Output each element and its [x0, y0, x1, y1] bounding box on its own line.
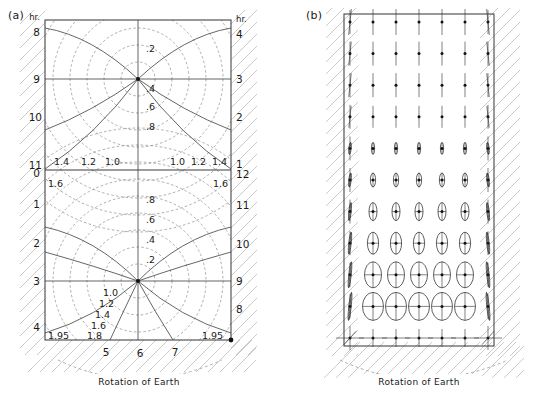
right-tick-3: 3	[236, 73, 243, 85]
tidal-ellipse	[390, 232, 401, 254]
contour-label-1p2-right: 1.2	[191, 156, 206, 167]
centre-label-upper-0p2: .2	[146, 43, 155, 54]
tidal-ellipse	[434, 262, 451, 288]
centre-label-lower-0p2: .2	[146, 254, 155, 265]
tidal-ellipse	[455, 292, 476, 320]
right-tick-12: 12	[236, 168, 249, 180]
tidal-ellipse	[415, 203, 423, 221]
panel-b-graphic: Rotation of Earth	[280, 0, 557, 398]
centre-label-lower-0p8: .8	[146, 194, 155, 205]
left-tick-3: 3	[33, 275, 40, 287]
tidal-ellipse	[441, 106, 444, 128]
contour-label-1p6-right: 1.6	[213, 178, 228, 189]
cotidal-curves-lower	[45, 182, 231, 340]
tidal-ellipse	[367, 232, 378, 254]
ellipse-field	[336, 9, 502, 350]
tidal-ellipse	[392, 203, 400, 221]
tidal-ellipse	[395, 106, 398, 128]
corner-label-1p95-right: 1.95	[202, 330, 223, 341]
corner-label-1p95-left: 1.95	[48, 330, 69, 341]
left-tick-0: 0	[33, 167, 40, 179]
tidal-ellipse	[413, 232, 424, 254]
tidal-ellipse	[369, 203, 377, 221]
tidal-ellipse	[372, 106, 375, 128]
tidal-ellipse	[418, 106, 421, 128]
figure-root: (a)	[0, 0, 557, 398]
right-tick-9: 9	[236, 275, 243, 287]
left-tick-9: 9	[33, 73, 40, 85]
tidal-ellipse	[464, 9, 467, 35]
amphidromic-point-upper	[136, 77, 140, 81]
tidal-ellipse	[372, 9, 375, 35]
tidal-ellipse	[438, 203, 446, 221]
tidal-ellipse	[371, 142, 374, 154]
diag-label-1p0: 1.0	[103, 287, 118, 298]
centre-label-upper-0p4: .4	[146, 83, 155, 94]
tidal-ellipse	[411, 262, 428, 288]
tidal-ellipse	[395, 9, 398, 35]
tidal-ellipse	[372, 42, 375, 66]
tidal-ellipse	[464, 42, 467, 66]
contour-label-1p4-left: 1.4	[54, 156, 69, 167]
contour-label-1p6-left: 1.6	[48, 178, 63, 189]
tidal-ellipse	[416, 173, 421, 187]
contour-label-1p2-left: 1.2	[81, 156, 96, 167]
rotation-caption-a: Rotation of Earth	[98, 377, 179, 387]
hatch-right	[225, 0, 275, 390]
bottom-tick-6: 6	[137, 347, 144, 359]
tidal-ellipse	[459, 232, 470, 254]
left-tick-2: 2	[33, 237, 40, 249]
tidal-ellipse	[464, 106, 467, 128]
tidal-ellipse	[372, 73, 375, 97]
right-tick-4: 4	[236, 28, 243, 40]
tidal-ellipse	[418, 42, 421, 66]
tidal-ellipse	[418, 9, 421, 35]
tidal-ellipse	[394, 142, 397, 154]
contour-label-1p0-right: 1.0	[170, 156, 185, 167]
contour-label-1p0-left: 1.0	[105, 156, 120, 167]
right-tick-2: 2	[236, 111, 243, 123]
tidal-ellipse	[395, 42, 398, 66]
tidal-ellipse	[395, 73, 398, 97]
tidal-ellipse	[464, 73, 467, 97]
amphidromic-point-lower	[136, 279, 140, 283]
bottom-tick-7: 7	[172, 346, 179, 358]
tidal-ellipse	[409, 292, 430, 320]
tidal-ellipse	[432, 292, 453, 320]
right-tick-10: 10	[236, 238, 249, 250]
tidal-ellipse	[386, 292, 407, 320]
diag-label-1p2: 1.2	[99, 298, 114, 309]
tidal-ellipse	[436, 232, 447, 254]
tidal-ellipse	[388, 262, 405, 288]
left-tick-8: 8	[33, 26, 40, 38]
bottom-tick-5: 5	[103, 346, 110, 358]
left-tick-1: 1	[33, 198, 40, 210]
tidal-ellipse	[441, 73, 444, 97]
tidal-ellipse	[439, 173, 444, 187]
contour-label-1p4-right: 1.4	[212, 156, 227, 167]
right-tick-8: 8	[236, 303, 243, 315]
tidal-ellipse	[440, 142, 443, 154]
axis-unit-left: hr.	[29, 12, 40, 22]
tidal-ellipse	[441, 42, 444, 66]
tidal-ellipse	[417, 142, 420, 154]
panel-a: (a)	[0, 0, 280, 398]
right-tick-11: 11	[236, 199, 249, 211]
corner-node	[229, 338, 234, 343]
tidal-ellipse	[441, 9, 444, 35]
tidal-ellipse	[365, 262, 382, 288]
tidal-ellipse	[363, 292, 384, 320]
centre-label-lower-0p4: .4	[146, 234, 155, 245]
left-tick-4: 4	[33, 321, 40, 333]
tidal-ellipse	[370, 173, 375, 187]
tidal-ellipse	[463, 142, 466, 154]
tidal-ellipse	[457, 262, 474, 288]
tidal-ellipse	[461, 203, 469, 221]
centre-label-upper-0p6: .6	[146, 101, 155, 112]
diag-label-1p4: 1.4	[95, 309, 110, 320]
tidal-ellipse	[462, 173, 467, 187]
tidal-ellipse	[393, 173, 398, 187]
axis-unit-right: hr.	[236, 14, 247, 24]
centre-label-upper-0p8: .8	[146, 121, 155, 132]
rotation-caption-b: Rotation of Earth	[378, 377, 459, 387]
